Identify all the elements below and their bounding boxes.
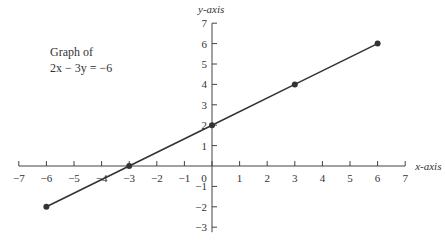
y-tick-label: 5 — [202, 58, 208, 70]
x-tick-label: −3 — [123, 172, 135, 184]
y-tick-label: −1 — [195, 180, 207, 192]
x-axis-label: x-axis — [414, 160, 441, 172]
x-tick-label: −7 — [13, 172, 25, 184]
chart-canvas: −7−6−5−4−3−2−101234567x-axis−3−2−1123456… — [0, 0, 445, 242]
data-point — [292, 81, 298, 87]
data-point — [375, 41, 381, 47]
x-tick-label: 5 — [347, 172, 353, 184]
x-tick-label: 4 — [320, 172, 326, 184]
y-tick-label: 4 — [202, 78, 208, 90]
y-tick-label: 7 — [202, 17, 208, 29]
x-tick-label: −5 — [68, 172, 80, 184]
data-point — [43, 204, 49, 210]
x-tick-label: 2 — [264, 172, 270, 184]
x-tick-label: −2 — [151, 172, 163, 184]
data-point — [126, 163, 132, 169]
x-tick-label: 6 — [375, 172, 381, 184]
x-tick-label: −1 — [179, 172, 191, 184]
x-tick-label: 1 — [237, 172, 243, 184]
x-tick-label: 7 — [402, 172, 408, 184]
y-tick-label: 6 — [202, 38, 208, 50]
y-axis-label: y-axis — [197, 3, 224, 15]
x-tick-label: 3 — [292, 172, 298, 184]
data-point — [209, 122, 215, 128]
y-tick-label: 3 — [202, 99, 208, 111]
x-tick-label: −6 — [41, 172, 53, 184]
y-tick-label: −2 — [195, 201, 207, 213]
y-tick-label: 1 — [202, 140, 208, 152]
y-tick-label: −3 — [195, 221, 207, 233]
